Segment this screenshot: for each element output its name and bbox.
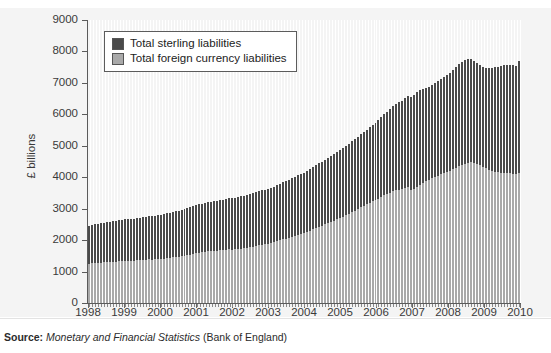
bar-segment-foreign-currency: [327, 223, 329, 303]
x-tick-mark-minor: [346, 304, 347, 307]
y-tick-mark: [82, 240, 87, 241]
legend-label-sterling: Total sterling liabilities: [130, 37, 241, 50]
bar-segment-sterling: [506, 65, 508, 173]
bar-segment-foreign-currency: [97, 263, 99, 303]
bar-segment-sterling: [252, 193, 254, 246]
bar-segment-foreign-currency: [339, 218, 341, 303]
x-tick-mark-minor: [310, 304, 311, 307]
x-tick-mark-minor: [307, 304, 308, 307]
x-tick-mark-minor: [194, 304, 195, 307]
bar-segment-sterling: [243, 196, 245, 249]
bar-segment-foreign-currency: [446, 172, 448, 303]
bar-segment-foreign-currency: [413, 189, 415, 303]
bar-segment-sterling: [154, 216, 156, 260]
x-tick-mark-minor: [137, 304, 138, 307]
x-tick-mark-minor: [286, 304, 287, 307]
x-tick-mark-minor: [173, 304, 174, 307]
bar-segment-sterling: [184, 209, 186, 256]
bar-segment-sterling: [234, 198, 236, 250]
bar-segment-foreign-currency: [437, 176, 439, 303]
bar-segment-foreign-currency: [392, 191, 394, 303]
bar-segment-foreign-currency: [324, 224, 326, 303]
bar-segment-sterling: [279, 184, 281, 241]
y-tick-mark: [82, 303, 87, 304]
bar-segment-sterling: [464, 60, 466, 164]
x-tick-mark-minor: [367, 304, 368, 307]
x-tick-mark-minor: [256, 304, 257, 307]
bar-segment-sterling: [100, 223, 102, 262]
bar-segment-foreign-currency: [321, 226, 323, 303]
bar-segment-foreign-currency: [136, 260, 138, 303]
x-tick-mark-minor: [134, 304, 135, 307]
x-tick-mark-minor: [146, 304, 147, 307]
bar-segment-foreign-currency: [291, 237, 293, 303]
bar-segment-sterling: [103, 223, 105, 263]
bar-segment-foreign-currency: [512, 174, 514, 303]
x-tick-mark-minor: [235, 304, 236, 307]
bar-segment-foreign-currency: [312, 229, 314, 303]
bar-segment-sterling: [425, 88, 427, 181]
bar-segment-foreign-currency: [189, 255, 191, 303]
bar-segment-foreign-currency: [419, 185, 421, 303]
y-tick-mark: [82, 83, 87, 84]
x-tick-mark-minor: [179, 304, 180, 307]
bar-segment-foreign-currency: [330, 222, 332, 303]
x-tick-mark-minor: [200, 304, 201, 307]
x-tick-mark-minor: [110, 304, 111, 307]
bar-segment-foreign-currency: [398, 190, 400, 303]
x-tick-mark-minor: [197, 304, 198, 307]
bar-segment-foreign-currency: [485, 168, 487, 303]
bar-segment-foreign-currency: [366, 204, 368, 303]
x-tick-mark-minor: [378, 304, 379, 307]
bar-segment-sterling: [264, 190, 266, 245]
x-tick-mark-minor: [435, 304, 436, 307]
bar-segment-foreign-currency: [342, 217, 344, 303]
bar-segment-sterling: [178, 211, 180, 257]
bar-segment-sterling: [136, 218, 138, 260]
bar-segment-sterling: [458, 64, 460, 166]
bar-segment-sterling: [127, 219, 129, 261]
bar-segment-sterling: [291, 178, 293, 236]
caption-divider: [0, 318, 551, 319]
x-tick-mark-minor: [358, 304, 359, 307]
bar-segment-sterling: [342, 148, 344, 217]
x-tick-mark-minor: [438, 304, 439, 307]
x-tick-mark-minor: [185, 304, 186, 307]
x-tick-mark-minor: [405, 304, 406, 307]
bar-segment-foreign-currency: [112, 262, 114, 303]
x-tick-mark-minor: [304, 304, 305, 307]
x-tick-mark-minor: [191, 304, 192, 307]
bar-segment-sterling: [437, 81, 439, 175]
bar-segment-sterling: [139, 218, 141, 260]
x-tick-mark-minor: [331, 304, 332, 307]
bar-segment-foreign-currency: [279, 240, 281, 303]
bar-segment-foreign-currency: [351, 212, 353, 303]
bar-segment-foreign-currency: [172, 257, 174, 303]
x-tick-mark-minor: [215, 304, 216, 307]
x-tick-mark-minor: [408, 304, 409, 307]
x-tick-mark-minor: [283, 304, 284, 307]
bar-segment-sterling: [375, 123, 377, 200]
bar-segment-sterling: [416, 92, 418, 187]
y-tick-label: 7000: [36, 77, 78, 88]
bar-segment-foreign-currency: [389, 193, 391, 303]
x-tick-mark-minor: [340, 304, 341, 307]
x-tick-mark-minor: [155, 304, 156, 307]
bar-segment-foreign-currency: [401, 189, 403, 303]
bar-segment-foreign-currency: [273, 242, 275, 303]
bar-segment-foreign-currency: [354, 211, 356, 303]
x-tick-mark-minor: [209, 304, 210, 307]
x-tick-mark-minor: [259, 304, 260, 307]
bar-segment-sterling: [255, 192, 257, 246]
bar-segment-sterling: [383, 114, 385, 195]
x-tick-mark-minor: [381, 304, 382, 307]
bar-segment-foreign-currency: [497, 172, 499, 303]
bar-segment-foreign-currency: [154, 259, 156, 303]
bar-segment-sterling: [321, 162, 323, 226]
bar-segment-foreign-currency: [467, 163, 469, 303]
bar-segment-foreign-currency: [500, 173, 502, 303]
x-tick-mark-minor: [301, 304, 302, 307]
bar-segment-foreign-currency: [515, 174, 517, 303]
bar-segment-foreign-currency: [175, 257, 177, 303]
x-tick-mark-minor: [221, 304, 222, 307]
